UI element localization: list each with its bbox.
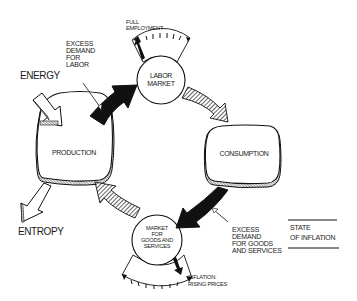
svg-text:EXCESS: EXCESS <box>66 40 94 47</box>
entropy-arrow <box>21 183 51 222</box>
labor-market-node: LABOR MARKET <box>137 56 185 104</box>
consumption-label: CONSUMPTION <box>219 150 268 157</box>
excess-goods-pointer <box>214 210 228 222</box>
consumption-node: CONSUMPTION <box>204 125 281 188</box>
svg-text:EMPLOYMENT: EMPLOYMENT <box>126 25 164 31</box>
legend-title-line1: STATE <box>290 224 311 231</box>
svg-text:SERVICES: SERVICES <box>144 243 171 249</box>
svg-text:INFLATION:: INFLATION: <box>188 274 217 280</box>
labor-to-consumption-arrow <box>182 87 228 122</box>
inflation-annotation: INFLATION: RISING PRICES <box>188 274 228 287</box>
svg-text:DEMAND: DEMAND <box>66 47 95 54</box>
goods-market-node: MARKET FOR GOODS AND SERVICES <box>132 215 182 265</box>
production-label: PRODUCTION <box>52 149 96 156</box>
excess-goods-annotation: EXCESS DEMAND FOR GOODS AND SERVICES <box>232 226 282 254</box>
excess-labor-annotation: EXCESS DEMAND FOR LABOR <box>66 40 95 68</box>
svg-text:FOR: FOR <box>66 54 80 61</box>
full-employment-annotation: FULL EMPLOYMENT <box>126 19 164 31</box>
labor-market-label-line2: MARKET <box>147 80 175 87</box>
excess-goods-demand-arrow <box>176 187 228 228</box>
entropy-label: ENTROPY <box>18 226 64 237</box>
legend-title-line2: OF INFLATION <box>290 234 335 241</box>
svg-text:EXCESS: EXCESS <box>232 226 260 233</box>
svg-text:DEMAND: DEMAND <box>232 233 261 240</box>
state-of-inflation-diagram: PRODUCTION CONSUMPTION LABOR MARKET FULL… <box>0 0 357 301</box>
svg-text:RISING PRICES: RISING PRICES <box>188 281 228 287</box>
svg-text:LABOR: LABOR <box>66 61 89 68</box>
labor-market-label-line1: LABOR <box>150 72 172 79</box>
energy-label: ENERGY <box>20 70 61 81</box>
svg-text:FOR GOODS: FOR GOODS <box>232 240 274 247</box>
goods-to-production-arrow <box>95 182 140 218</box>
svg-text:AND SERVICES: AND SERVICES <box>232 247 282 254</box>
state-of-inflation-legend: STATE OF INFLATION <box>288 220 339 248</box>
